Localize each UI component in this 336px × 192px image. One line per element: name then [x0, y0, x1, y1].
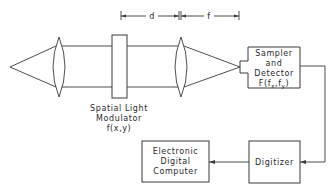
- svg-text:Spatial Light: Spatial Light: [90, 104, 148, 113]
- point-source: [10, 46, 56, 87]
- slm-label: Spatial Light Modulator f(x,y): [90, 104, 148, 133]
- optical-processing-diagram: d f Spatial Light Modulator f(x,y) Sampl…: [0, 0, 336, 192]
- spatial-light-modulator: [112, 35, 127, 98]
- digitizer-label: Digitizer: [255, 158, 294, 167]
- svg-text:Sampler: Sampler: [255, 49, 293, 58]
- arrowhead-icon: [234, 15, 239, 18]
- connector-sampler-to-digitizer: [300, 66, 325, 164]
- arrowhead-icon: [121, 15, 126, 18]
- svg-text:f(x,y): f(x,y): [107, 124, 132, 133]
- sampler-detector-block: Sampler and Detector F(fx,fy): [240, 47, 300, 90]
- svg-text:Electronic: Electronic: [153, 147, 198, 156]
- svg-text:Digital: Digital: [160, 157, 190, 166]
- arrowhead-icon: [209, 160, 215, 164]
- svg-text:Modulator: Modulator: [96, 114, 142, 123]
- converging-beam: [184, 46, 240, 87]
- arrowhead-icon: [300, 160, 306, 164]
- svg-text:Detector: Detector: [254, 69, 294, 78]
- svg-text:Computer: Computer: [153, 167, 198, 176]
- svg-text:and: and: [266, 59, 283, 68]
- dimension-line: d f: [121, 11, 239, 21]
- dim-label-f: f: [207, 12, 210, 21]
- arrowhead-icon: [181, 15, 186, 18]
- connector-digitizer-to-computer: [209, 160, 249, 164]
- arrowhead-icon: [174, 15, 179, 18]
- dim-label-d: d: [149, 12, 155, 21]
